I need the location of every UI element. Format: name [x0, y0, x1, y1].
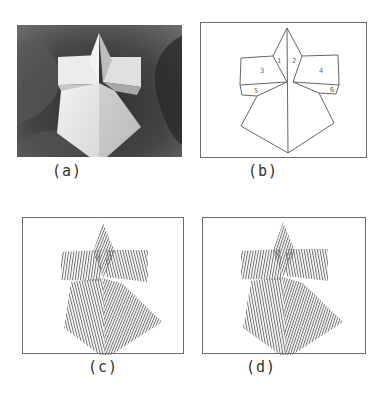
face-label-2: 2 — [292, 57, 296, 65]
face-label-3: 3 — [260, 67, 264, 75]
photo-image — [17, 25, 182, 157]
caption-a: (a) — [52, 162, 82, 180]
caption-c: (c) — [88, 358, 118, 376]
stripe-image — [23, 218, 185, 355]
face-label-5: 5 — [254, 87, 258, 95]
caption-b: (b) — [248, 162, 278, 180]
caption-d: (d) — [246, 358, 276, 376]
panel-c — [22, 217, 184, 354]
face-label-1: 1 — [277, 57, 281, 65]
face-label-4: 4 — [319, 67, 323, 75]
panel-b: 1 2 3 4 5 6 — [200, 22, 367, 158]
panel-d — [202, 217, 366, 354]
panel-a — [17, 25, 182, 157]
line-drawing: 1 2 3 4 5 6 — [201, 23, 368, 159]
stripe-image — [203, 218, 367, 355]
face-label-6: 6 — [330, 86, 334, 94]
